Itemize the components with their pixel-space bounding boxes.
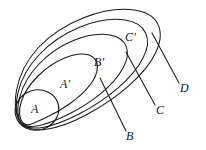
label-d: D xyxy=(180,82,189,94)
label-b: B xyxy=(126,130,134,142)
label-c: C xyxy=(156,104,164,116)
figure-container: A A′ B′ C′ B C D xyxy=(0,0,206,150)
nested-curves-illustration xyxy=(0,0,206,150)
label-b-prime: B′ xyxy=(94,56,104,68)
label-a: A xyxy=(31,103,39,115)
label-c-prime: C′ xyxy=(125,31,136,43)
leader-line-c xyxy=(126,52,155,105)
leader-line-d xyxy=(152,33,179,83)
label-a-prime: A′ xyxy=(60,78,70,90)
